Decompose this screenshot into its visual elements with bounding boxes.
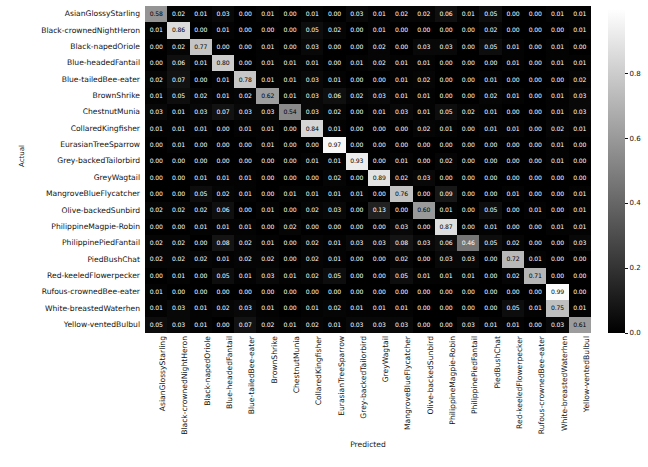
heatmap-cell: 0.00 [546, 170, 568, 186]
heatmap-cell: 0.01 [323, 186, 345, 202]
heatmap-cell: 0.01 [323, 235, 345, 251]
heatmap-cell: 0.03 [569, 235, 591, 251]
heatmap-cell: 0.00 [190, 137, 212, 153]
heatmap-cell: 0.00 [524, 55, 546, 71]
heatmap-cell: 0.00 [368, 186, 390, 202]
heatmap-cell: 0.54 [279, 104, 301, 120]
x-axis-tick-slot: CollaredKingfisher [301, 336, 323, 436]
heatmap-cell: 0.03 [413, 39, 435, 55]
heatmap-cell: 0.02 [256, 317, 278, 333]
heatmap-cell: 0.78 [234, 71, 256, 87]
heatmap-cell: 0.00 [346, 170, 368, 186]
heatmap-cell: 0.03 [390, 104, 412, 120]
heatmap-cell: 0.00 [368, 153, 390, 169]
heatmap-cell: 0.01 [212, 88, 234, 104]
heatmap-cell: 0.00 [190, 22, 212, 38]
heatmap-cell: 0.00 [479, 251, 501, 267]
heatmap-cell: 0.01 [546, 6, 568, 22]
heatmap-cell: 0.01 [502, 55, 524, 71]
heatmap-cell: 0.01 [346, 186, 368, 202]
heatmap-cell: 0.03 [346, 235, 368, 251]
x-axis-tick-slot: Blue-headedFantail [212, 336, 234, 436]
x-axis-tick-slot: AsianGlossyStarling [145, 336, 167, 436]
heatmap-cell: 0.01 [190, 300, 212, 316]
x-axis-tick-label: AsianGlossyStarling [159, 336, 167, 411]
heatmap-cell: 0.01 [479, 317, 501, 333]
heatmap-cell: 0.00 [569, 251, 591, 267]
heatmap-cell: 0.00 [256, 219, 278, 235]
heatmap-cell: 0.00 [435, 22, 457, 38]
heatmap-cell: 0.01 [256, 71, 278, 87]
colorbar-tick-text: 0.2 [630, 264, 641, 272]
heatmap-cell: 0.01 [569, 6, 591, 22]
heatmap-cell: 0.00 [346, 22, 368, 38]
heatmap-cell: 0.02 [145, 251, 167, 267]
heatmap-cell: 0.00 [368, 71, 390, 87]
heatmap-cell: 0.01 [479, 120, 501, 136]
heatmap-cell: 0.03 [346, 317, 368, 333]
heatmap-cell: 0.00 [301, 219, 323, 235]
heatmap-cell: 0.00 [435, 317, 457, 333]
heatmap-cell: 0.00 [368, 137, 390, 153]
y-axis-tick-label: Olive-backedSunbird [0, 202, 143, 218]
heatmap-cell: 0.01 [234, 219, 256, 235]
heatmap-cell: 0.00 [502, 22, 524, 38]
heatmap-cell: 0.00 [167, 153, 189, 169]
heatmap-cell: 0.00 [502, 6, 524, 22]
x-axis-tick-label: BrownShrike [271, 336, 279, 384]
heatmap-cell: 0.02 [479, 22, 501, 38]
heatmap-cell: 0.00 [479, 284, 501, 300]
heatmap-cell: 0.00 [569, 137, 591, 153]
heatmap-cell: 0.00 [435, 300, 457, 316]
heatmap-cell: 0.00 [390, 284, 412, 300]
heatmap-cell: 0.00 [368, 284, 390, 300]
heatmap-cell: 0.00 [234, 55, 256, 71]
heatmap-cell: 0.02 [546, 120, 568, 136]
heatmap-cell: 0.97 [323, 137, 345, 153]
heatmap-cell: 0.87 [435, 219, 457, 235]
heatmap-cell: 0.01 [190, 6, 212, 22]
heatmap-cell: 0.06 [435, 235, 457, 251]
heatmap-cell: 0.01 [413, 104, 435, 120]
heatmap-cell: 0.61 [569, 317, 591, 333]
heatmap-cell: 0.00 [569, 268, 591, 284]
heatmap-cell: 0.01 [145, 120, 167, 136]
colorbar-tick: 0.2 [625, 264, 641, 272]
colorbar-tick-labels: 0.00.20.40.60.8 [608, 9, 648, 333]
heatmap-cell: 0.00 [457, 39, 479, 55]
heatmap-cell: 0.03 [368, 88, 390, 104]
heatmap-cell: 0.00 [368, 268, 390, 284]
heatmap-cell: 0.00 [368, 219, 390, 235]
heatmap-cell: 0.00 [569, 153, 591, 169]
heatmap-cell: 0.00 [145, 186, 167, 202]
heatmap-cell: 0.01 [323, 317, 345, 333]
heatmap-cell: 0.62 [256, 88, 278, 104]
heatmap-cell: 0.00 [256, 284, 278, 300]
heatmap-cell: 0.01 [546, 153, 568, 169]
heatmap-cell: 0.02 [234, 88, 256, 104]
colorbar-tick-mark [625, 73, 628, 74]
heatmap-cell: 0.02 [145, 202, 167, 218]
y-axis-tick-label: EurasianTreeSparrow [0, 137, 143, 153]
heatmap-cell: 0.01 [167, 104, 189, 120]
heatmap-cell: 0.00 [323, 55, 345, 71]
heatmap-cell: 0.00 [435, 88, 457, 104]
heatmap-cell: 0.00 [546, 22, 568, 38]
x-axis-tick-slot: Rufous-crownedBee-eater [524, 336, 546, 436]
heatmap-cell: 0.00 [390, 39, 412, 55]
heatmap-cell: 0.00 [502, 104, 524, 120]
heatmap-cell: 0.05 [435, 104, 457, 120]
heatmap-cell: 0.00 [301, 137, 323, 153]
heatmap-cell: 0.03 [234, 300, 256, 316]
heatmap-cell: 0.00 [502, 170, 524, 186]
x-axis-tick-label: Yellow-ventedBulbul [583, 336, 591, 412]
heatmap-cell: 0.00 [413, 186, 435, 202]
heatmap-cell: 0.00 [479, 137, 501, 153]
heatmap-cell: 0.00 [279, 251, 301, 267]
colorbar-tick-mark [625, 268, 628, 269]
heatmap-cell: 0.00 [524, 104, 546, 120]
heatmap-cell: 0.02 [145, 235, 167, 251]
y-axis-tick-label: Yellow-ventedBulbul [0, 317, 143, 333]
heatmap-cell: 0.72 [502, 251, 524, 267]
heatmap-cell: 0.05 [301, 22, 323, 38]
